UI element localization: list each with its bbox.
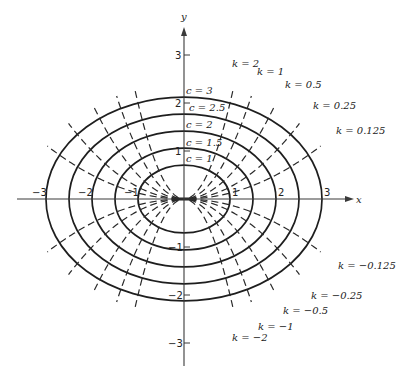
y-axis-label: y xyxy=(180,11,187,22)
y-tick-label: −3 xyxy=(168,338,183,349)
y-axis-arrow-icon xyxy=(181,27,187,36)
ellipse-label: c = 1 xyxy=(186,153,213,164)
y-tick-label: 1 xyxy=(175,146,181,157)
trajectory-k-0_125-left xyxy=(47,146,178,199)
y-tick-label: −2 xyxy=(168,290,183,301)
trajectory-label: k = 0.25 xyxy=(313,100,356,111)
trajectory-label: k = −0.5 xyxy=(283,305,328,316)
y-tick-label: 3 xyxy=(175,50,181,61)
orthogonal-trajectories-diagram: x y −3−2−1123321−1−2−3 c = 1c = 1.5c = 2… xyxy=(0,0,400,381)
x-axis-label: x xyxy=(356,194,362,205)
x-tick-label: −2 xyxy=(78,187,93,198)
trajectory-k-neg0_25-right xyxy=(190,199,300,274)
x-tick-label: 1 xyxy=(232,187,238,198)
trajectory-k-0_5-left xyxy=(94,106,179,198)
trajectory-k-neg0_5-left xyxy=(94,199,179,291)
trajectory-k-neg0_25-left xyxy=(69,199,179,274)
trajectory-label: k = −0.25 xyxy=(311,290,362,301)
ellipse-label: c = 2.5 xyxy=(189,102,225,113)
plot-canvas: x y −3−2−1123321−1−2−3 c = 1c = 1.5c = 2… xyxy=(0,0,400,381)
trajectory-label: k = −2 xyxy=(232,332,268,343)
y-tick-label: 2 xyxy=(175,98,181,109)
x-axis-arrow-icon xyxy=(345,196,354,202)
x-tick-label: −3 xyxy=(32,187,47,198)
ellipse-label: c = 2 xyxy=(186,119,213,130)
trajectory-k-neg0_125-left xyxy=(47,199,178,252)
x-tick-label: −1 xyxy=(124,187,139,198)
trajectory-label: k = −0.125 xyxy=(338,260,396,271)
trajectory-label: k = 2 xyxy=(232,58,259,69)
trajectory-k-neg0_125-right xyxy=(190,199,321,252)
trajectory-label: k = 1 xyxy=(257,66,284,77)
ellipse-label: c = 3 xyxy=(186,85,213,96)
x-tick-label: 3 xyxy=(324,187,330,198)
x-tick-label: 2 xyxy=(278,187,284,198)
trajectory-label: k = 0.125 xyxy=(336,125,385,136)
y-tick-label: −1 xyxy=(168,242,183,253)
trajectory-label: k = 0.5 xyxy=(285,79,322,90)
trajectory-label: k = −1 xyxy=(258,321,294,332)
trajectory-k-neg0_5-right xyxy=(190,199,275,291)
ellipse-label: c = 1.5 xyxy=(186,137,222,148)
